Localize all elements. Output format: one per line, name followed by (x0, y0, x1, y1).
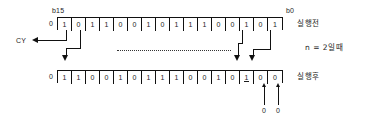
bit-cell: 0 (72, 18, 86, 31)
carry-flag-label: CY (16, 37, 26, 44)
fill-line-1 (264, 87, 265, 105)
shift-line-source-right-2 (270, 30, 271, 50)
bit-cell: 0 (184, 71, 198, 84)
shift-arrow-down-left-icon (62, 55, 68, 61)
carry-bus-line (38, 40, 67, 41)
bit-cell: 0 (198, 71, 212, 84)
bit-cell: 0 (128, 18, 142, 31)
bit-cell: 1 (100, 18, 114, 31)
shift-line-source-right-1 (242, 30, 243, 44)
bit-label-msb: b15 (52, 7, 64, 14)
row-label-before: 실행전 (297, 20, 320, 28)
shift-arrow-down-right-1-icon (234, 55, 240, 61)
carry-cell-after: 0 (45, 70, 57, 83)
bit-value: 1 (244, 74, 250, 82)
bit-cell: 0 (254, 18, 268, 31)
bit-cell: 0 (86, 71, 100, 84)
carry-cell-before: 0 (45, 17, 57, 30)
row-label-after: 실행후 (297, 73, 320, 81)
bit-cell: 1 (86, 18, 100, 31)
carry-arrow-icon (32, 37, 38, 43)
bit-cell: 0 (128, 71, 142, 84)
bit-cell: 0 (156, 18, 170, 31)
fill-arrow-up-2-icon (276, 83, 280, 87)
shift-link-right-2 (253, 49, 271, 50)
bit-label-lsb: b0 (286, 7, 294, 14)
bit-cell: 1 (170, 18, 184, 31)
bit-cell: 1 (142, 71, 156, 84)
bit-cell: 1 (240, 71, 254, 84)
shift-amount-note: n = 2일때 (305, 44, 343, 52)
bit-cell: 0 (226, 18, 240, 31)
bit-cell: 1 (58, 71, 72, 84)
ellipsis-dotted-line (117, 50, 231, 51)
shift-arrow-down-right-2-icon (249, 55, 255, 61)
bit-cell: 1 (58, 18, 72, 31)
bit-cell: 1 (142, 18, 156, 31)
bit-cell: 0 (226, 71, 240, 84)
register-row-after: 0 1 1 0 0 1 0 1 1 1 0 0 1 0 1 0 0 (45, 70, 283, 83)
shift-link-line-left (66, 48, 81, 49)
shift-line-source-2 (80, 30, 81, 49)
bit-cell: 1 (72, 71, 86, 84)
bit-cell: 0 (114, 18, 128, 31)
bit-cell: 1 (114, 71, 128, 84)
bit-cells-after: 1 1 0 0 1 0 1 1 1 0 0 1 0 1 0 0 (57, 70, 283, 83)
bit-cell: 1 (170, 71, 184, 84)
fill-line-2 (278, 87, 279, 105)
bit-cells-before: 1 0 1 1 0 0 1 0 1 1 1 0 0 1 0 1 (57, 17, 283, 30)
fill-arrow-up-1-icon (262, 83, 266, 87)
bit-cell: 1 (184, 18, 198, 31)
bit-cell: 1 (156, 71, 170, 84)
register-row-before: 0 1 0 1 1 0 0 1 0 1 1 1 0 0 1 0 1 (45, 17, 283, 30)
bit-cell: 1 (198, 18, 212, 31)
shift-register-diagram: b15 b0 0 1 0 1 1 0 0 1 0 1 1 1 0 0 1 0 1… (0, 0, 381, 122)
bit-cell: 1 (212, 71, 226, 84)
fill-value-2: 0 (276, 107, 280, 114)
bit-cell: 0 (100, 71, 114, 84)
fill-value-1: 0 (262, 107, 266, 114)
bit-cell: 0 (212, 18, 226, 31)
